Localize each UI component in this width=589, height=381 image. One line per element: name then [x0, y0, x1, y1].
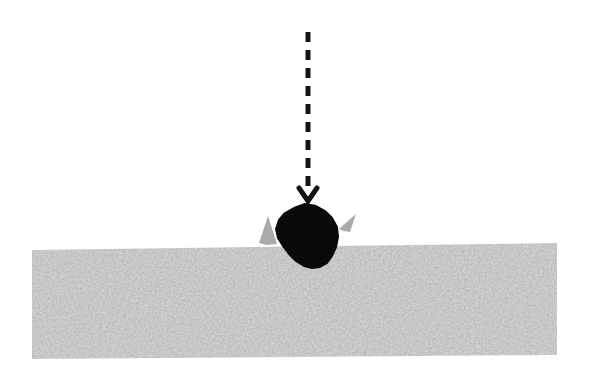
diagram-canvas	[0, 0, 589, 381]
impact-diagram-scene: Meteorite impact on granular surface	[0, 0, 589, 381]
ejecta-spray-left	[259, 216, 277, 245]
trajectory-arrow-group	[299, 32, 317, 201]
ejecta-spray-right	[339, 214, 356, 232]
arrowhead-icon	[299, 188, 317, 201]
